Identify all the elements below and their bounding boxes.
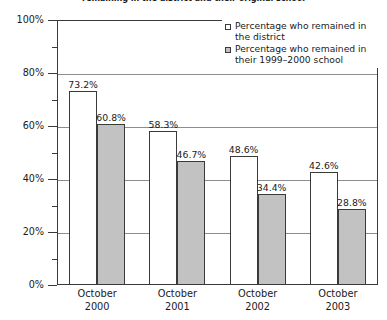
bar-value-label: 28.8% [337,198,367,208]
y-axis-label: 80% [23,68,44,78]
legend-swatch-icon [225,47,231,53]
legend-item[interactable]: Percentage who remained inthe district [225,21,376,42]
bar[interactable]: 48.6% [230,156,258,285]
legend-label: Percentage who remained intheir 1999–200… [235,44,366,65]
bar-chart: remaining in the district and their orig… [0,0,387,320]
bar-group: 58.3%46.7% [149,20,205,285]
y-axis-tick [48,285,57,286]
bar[interactable]: 58.3% [149,131,177,285]
chart-legend: Percentage who remained inthe districtPe… [222,18,378,68]
bar[interactable]: 42.6% [310,172,338,285]
bar-value-label: 60.8% [96,113,126,123]
bar[interactable]: 60.8% [97,124,125,285]
y-axis-tick [48,232,57,233]
bar-value-label: 42.6% [309,161,339,171]
bar-value-label: 73.2% [68,80,98,90]
bar[interactable]: 73.2% [69,91,97,285]
bar[interactable]: 28.8% [338,209,366,285]
bar[interactable]: 34.4% [258,194,286,285]
y-axis-label: 60% [23,121,44,131]
y-axis: 0%20%40%60%80%100% [0,0,57,320]
legend-label: Percentage who remained inthe district [235,21,366,42]
bar-value-label: 48.6% [229,145,259,155]
y-axis-tick [48,179,57,180]
y-axis-tick [48,20,57,21]
bar-value-label: 34.4% [257,183,287,193]
x-axis: October2000October2001October2002October… [57,288,378,320]
y-axis-tick [48,73,57,74]
bar-group: 73.2%60.8% [69,20,125,285]
x-axis-label: October2000 [57,288,137,313]
legend-item[interactable]: Percentage who remained intheir 1999–200… [225,44,376,65]
x-axis-label: October2001 [137,288,217,313]
y-axis-label: 40% [23,174,44,184]
x-axis-label: October2002 [218,288,298,313]
y-axis-label: 20% [23,227,44,237]
legend-swatch-icon [225,24,231,30]
bar-value-label: 46.7% [177,150,207,160]
bar[interactable]: 46.7% [177,161,205,285]
chart-title: remaining in the district and their orig… [0,0,387,3]
y-axis-label: 100% [17,15,44,25]
bar-value-label: 58.3% [149,120,179,130]
y-axis-label: 0% [29,280,44,290]
x-axis-label: October2003 [298,288,378,313]
y-axis-tick [48,126,57,127]
